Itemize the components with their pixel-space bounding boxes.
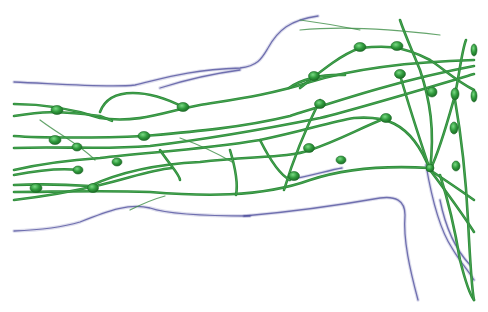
lymph-vessel <box>430 40 466 170</box>
lymph-node <box>88 184 99 193</box>
lymph-node <box>395 70 406 79</box>
lymph-node <box>304 144 315 153</box>
lymph-node <box>72 143 82 151</box>
lymph-node <box>138 132 150 141</box>
lymph-node <box>471 90 477 102</box>
lymph-node <box>309 72 320 81</box>
lymph-node <box>354 43 366 52</box>
arm-outline-stroke <box>14 16 318 86</box>
lymph-node <box>471 44 477 56</box>
thin-vessel <box>300 28 440 35</box>
arm-outline-stroke <box>14 16 318 86</box>
lymph-node <box>381 114 392 123</box>
lymph-node <box>336 156 346 164</box>
lymph-vessel <box>260 140 290 180</box>
lymph-node <box>451 88 459 100</box>
lymphatic-arm-illustration <box>0 0 488 312</box>
lymph-node <box>289 172 300 181</box>
lymph-node <box>452 161 460 171</box>
thin-vessel <box>40 120 95 160</box>
lymph-node <box>315 100 326 109</box>
lymph-node <box>427 87 437 97</box>
lymph-node <box>426 164 434 172</box>
lymph-vessel <box>300 48 360 88</box>
lymph-vessel-highlight <box>14 66 474 138</box>
lymph-vessel <box>100 93 183 112</box>
lymph-vessel-highlight <box>14 118 386 186</box>
lymph-node <box>49 136 61 145</box>
illustration-canvas <box>0 0 488 312</box>
arm-outline-stroke <box>14 206 250 231</box>
lymph-node <box>30 184 42 193</box>
lymph-node <box>177 103 189 112</box>
arm-outline-stroke <box>244 198 418 300</box>
lymph-node <box>450 122 458 134</box>
lymph-node <box>51 106 63 115</box>
lymph-vessels <box>14 20 474 300</box>
lymph-node <box>391 42 403 51</box>
lymph-node <box>112 158 122 166</box>
lymph-vessel <box>14 118 386 186</box>
lymph-node <box>73 166 83 174</box>
lymph-vessel <box>14 112 112 121</box>
lymph-vessel <box>14 66 474 138</box>
